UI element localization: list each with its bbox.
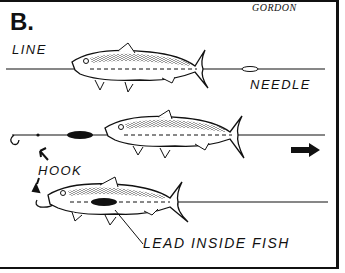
step3-lead-inside-fish xyxy=(33,177,328,244)
lead-weight-inside-icon xyxy=(91,198,117,206)
leader-line xyxy=(115,210,143,244)
label-lead-inside-fish: LEAD INSIDE FISH xyxy=(143,235,290,251)
right-arrow-icon xyxy=(291,143,320,157)
needle-eye-icon xyxy=(242,67,258,72)
label-needle: NEEDLE xyxy=(250,77,311,92)
arrow-down-icon xyxy=(33,178,39,192)
label-hook: HOOK xyxy=(38,163,82,178)
lead-weight-icon xyxy=(67,131,93,139)
hook-icon xyxy=(11,135,19,145)
label-line: LINE xyxy=(12,42,47,57)
fishing-rig-diagram xyxy=(0,0,345,273)
arrow-to-hook-icon xyxy=(40,148,48,160)
step2-fish-with-lead xyxy=(11,110,325,160)
